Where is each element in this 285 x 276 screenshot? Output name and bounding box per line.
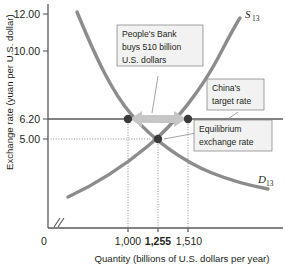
annotation-peoples-bank-line-1: People's Bank — [122, 29, 177, 39]
y-tick-label-10: 10.00 — [14, 45, 40, 57]
x-tick-label-1000: 1,000 — [115, 235, 141, 247]
annotation-equilibrium-exchange-rate: Equilibrium exchange rate — [164, 120, 272, 151]
point-quantity-supplied-at-target — [184, 115, 192, 123]
bottom-caption — [2, 266, 282, 276]
annotation-chinas-target-rate-line-1: China's — [212, 83, 240, 93]
y-tick-marks — [43, 14, 48, 139]
annotation-chinas-target-rate: China's target rate — [207, 79, 264, 119]
chart-canvas: 12.00 10.00 6.20 5.00 0 Exchange rate (y… — [0, 0, 285, 276]
point-equilibrium — [154, 135, 162, 143]
annotation-equilibrium-line-2: exchange rate — [199, 137, 254, 147]
origin-label: 0 — [41, 235, 47, 247]
x-tick-label-1510: 1,510 — [176, 235, 202, 247]
y-tick-label-620: 6.20 — [20, 113, 41, 125]
x-axis-title: Quantity (billions of U.S. dollars per y… — [95, 253, 270, 264]
supply-curve-label-subscript: 13 — [252, 14, 260, 23]
annotation-chinas-target-rate-line-2: target rate — [212, 96, 251, 106]
y-tick-label-500: 5.00 — [20, 133, 41, 145]
annotation-peoples-bank-line-2: buys 510 billion — [122, 42, 181, 52]
demand-curve-label-subscript: 13 — [266, 179, 274, 188]
exchange-rate-intervention-figure: 12.00 10.00 6.20 5.00 0 Exchange rate (y… — [0, 0, 285, 276]
axis-break-icon — [54, 218, 64, 227]
supply-curve-label-group: S 13 — [245, 8, 260, 23]
annotation-peoples-bank-line-3: U.S. dollars — [122, 55, 166, 65]
point-quantity-demanded-at-target — [124, 115, 132, 123]
x-tick-label-1255: 1,255 — [145, 235, 171, 247]
demand-curve-label: D — [257, 173, 266, 185]
annotation-equilibrium-line-1: Equilibrium — [199, 124, 242, 134]
y-axis-title: Exchange rate (yuan per U.S. dollar) — [4, 14, 15, 170]
y-tick-label-12: 12.00 — [14, 8, 40, 20]
supply-curve-label: S — [245, 8, 251, 20]
